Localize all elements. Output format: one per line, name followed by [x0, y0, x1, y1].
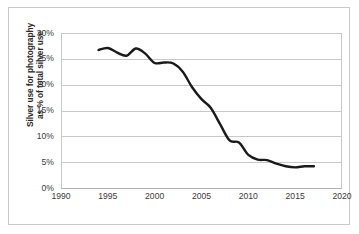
x-tick-label: 2005	[182, 192, 222, 201]
y-tick-label: 30%	[14, 29, 54, 38]
series-path	[98, 48, 313, 167]
chart-container: Silver use for photography as % of total…	[8, 7, 350, 225]
x-tick-label: 1990	[41, 192, 81, 201]
y-tick-label: 20%	[14, 80, 54, 89]
x-tick-label: 2000	[135, 192, 175, 201]
y-tick-label: 15%	[14, 106, 54, 115]
x-tick-label: 2010	[228, 192, 268, 201]
y-tick-label: 10%	[14, 132, 54, 141]
y-axis-title: Silver use for photography as % of total…	[21, 0, 51, 151]
x-tick-label: 2015	[275, 192, 315, 201]
y-tick-label: 5%	[14, 158, 54, 167]
y-tick-label: 25%	[14, 54, 54, 63]
x-tick-label: 1995	[88, 192, 128, 201]
x-tick-label: 2020	[322, 192, 359, 201]
gridline-0%	[61, 188, 342, 189]
series-line-silver-photography	[61, 33, 342, 188]
plot-area	[61, 33, 342, 188]
y-tick-label: 0%	[14, 184, 54, 193]
